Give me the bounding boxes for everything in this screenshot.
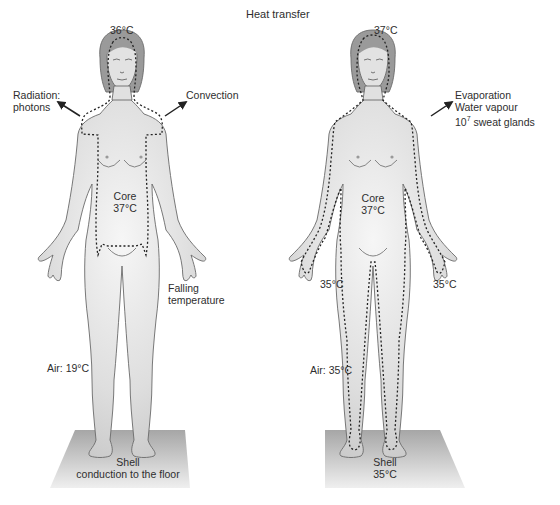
right-shell-temp-left: 35°C — [320, 278, 343, 290]
sweat-glands-base: 10 — [455, 116, 467, 128]
right-core-title: Core — [358, 192, 388, 204]
convection-arrow — [165, 102, 186, 116]
left-head-temp: 36°C — [110, 24, 133, 36]
neck-left — [112, 86, 132, 100]
falling-line1: Falling — [168, 282, 225, 294]
sweat-glands-text: sweat glands — [471, 116, 535, 128]
left-shell-title: Shell — [68, 456, 188, 468]
left-core-label: Core 37°C — [110, 190, 140, 214]
evaporation-line2: Water vapour — [455, 101, 535, 113]
right-air-temp: Air: 35°C — [310, 364, 352, 376]
diagram-title: Heat transfer — [246, 8, 310, 20]
evaporation-line3: 107 sweat glands — [455, 113, 535, 128]
neck-right — [363, 86, 383, 100]
figure-left — [38, 30, 205, 458]
left-core-title: Core — [110, 190, 140, 202]
convection-label: Convection — [186, 89, 239, 101]
falling-line2: temperature — [168, 294, 225, 306]
body-right — [289, 96, 456, 458]
radiation-label: Radiation: photons — [13, 89, 60, 113]
radiation-arrow — [58, 102, 80, 116]
evaporation-line1: Evaporation — [455, 89, 535, 101]
figure-right — [289, 30, 456, 458]
right-shell-temp: 35°C — [370, 468, 400, 480]
left-shell-label: Shell conduction to the floor — [68, 456, 188, 480]
left-shell-desc: conduction to the floor — [68, 468, 188, 480]
right-shell-temp-right: 35°C — [433, 278, 456, 290]
right-shell-label: Shell 35°C — [370, 456, 400, 480]
body-left — [38, 96, 205, 458]
radiation-label-line1: Radiation: — [13, 89, 60, 101]
evaporation-arrow — [431, 102, 452, 116]
falling-temperature-label: Falling temperature — [168, 282, 225, 306]
evaporation-label: Evaporation Water vapour 107 sweat gland… — [455, 89, 535, 128]
right-shell-title: Shell — [370, 456, 400, 468]
right-core-temp: 37°C — [358, 204, 388, 216]
radiation-label-line2: photons — [13, 101, 60, 113]
right-core-label: Core 37°C — [358, 192, 388, 216]
diagram-canvas — [0, 0, 560, 505]
right-head-temp: 37°C — [374, 24, 397, 36]
left-core-temp: 37°C — [110, 202, 140, 214]
left-air-temp: Air: 19°C — [47, 362, 89, 374]
